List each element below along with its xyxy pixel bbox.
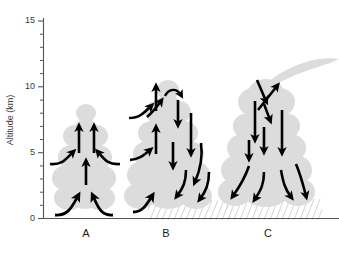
- y-axis-title: Altitude (km): [5, 95, 15, 146]
- figure-canvas: 0 5 10 15 Altitude (km) A B C: [0, 0, 339, 253]
- y-tick-label-15: 15: [25, 15, 35, 25]
- stage-label-c: C: [264, 227, 272, 239]
- convective-cloud-lifecycle-figure: 0 5 10 15 Altitude (km) A B C: [0, 0, 339, 253]
- stage-label-a: A: [82, 227, 90, 239]
- cloud-c: [218, 58, 339, 207]
- cloud-a-puffs: [52, 104, 116, 210]
- x-axis: A B C: [44, 219, 339, 240]
- y-tick-label-10: 10: [25, 81, 35, 91]
- y-tick-label-5: 5: [30, 147, 35, 157]
- cloud-b-puffs: [124, 80, 212, 209]
- stage-label-b: B: [162, 227, 169, 239]
- y-tick-label-0: 0: [30, 213, 35, 223]
- y-axis: 0 5 10 15 Altitude (km): [5, 15, 44, 223]
- cloud-b: [124, 80, 212, 212]
- cloud-a: [50, 104, 120, 215]
